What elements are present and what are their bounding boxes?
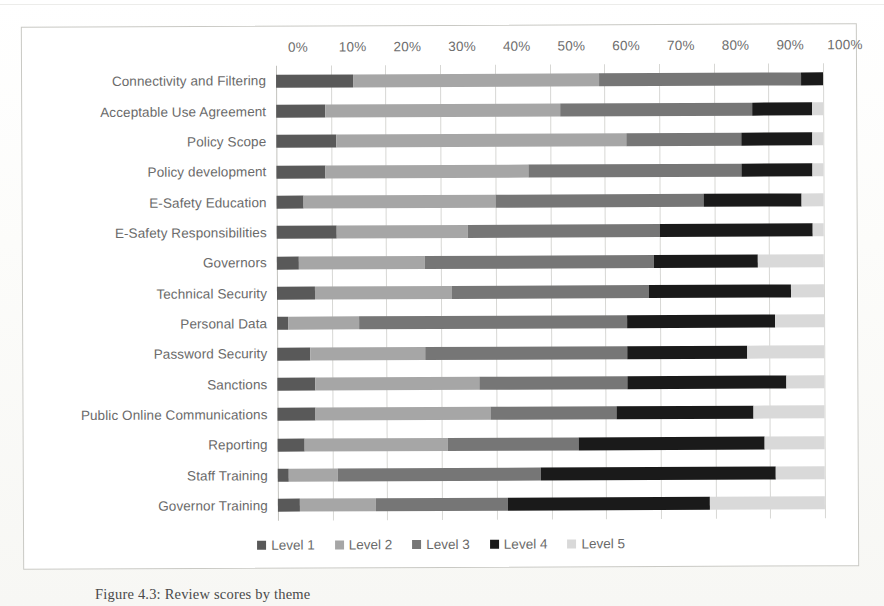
legend-label: Level 2 [349,537,393,552]
bar-segment-level-1 [278,499,300,512]
category-label: Staff Training [187,468,268,483]
bar-segment-level-5 [812,102,823,115]
category-label: Policy development [148,164,267,180]
legend-swatch-icon [567,539,576,548]
bar-segment-level-2 [304,195,495,209]
bar-segment-level-1 [276,165,325,178]
category-label: Personal Data [180,316,267,331]
chart-legend: Level 1Level 2Level 3Level 4Level 5 [23,535,859,554]
bar-segment-level-5 [748,345,825,358]
bar-segment-level-4 [627,345,747,359]
x-tick-70pct: 70% [667,38,695,53]
bar-row: Public Online Communications [277,406,824,421]
bar-segment-level-3 [452,285,649,299]
x-tick-60pct: 60% [612,38,640,53]
bar-segment-level-1 [277,317,288,330]
bar-row: E-Safety Responsibilities [277,224,824,239]
bar-segment-level-3 [376,498,507,512]
x-tick-50pct: 50% [558,38,586,53]
bar-segment-level-5 [802,193,824,206]
bar-segment-level-2 [288,317,359,330]
bar-segment-level-1 [276,135,336,148]
x-tick-90pct: 90% [776,37,804,52]
x-tick-20pct: 20% [393,39,421,54]
bar-row: Technical Security [277,284,824,299]
bar-rows: Connectivity and FilteringAcceptable Use… [276,63,825,520]
bar-segment-level-4 [703,193,802,206]
legend-swatch-icon [257,541,266,550]
bar-segment-level-5 [753,406,824,419]
category-label: E-Safety Responsibilities [115,225,267,241]
bar-segment-level-4 [660,224,813,238]
bar-segment-level-3 [359,316,627,330]
bar-segment-level-1 [277,256,299,269]
category-label: Governor Training [158,498,268,513]
bar-row: Governors [277,254,824,269]
legend-swatch-icon [490,540,499,549]
legend-label: Level 4 [504,537,548,552]
bar-segment-level-3 [338,468,540,482]
bar-segment-level-5 [775,315,824,328]
bar-segment-level-4 [752,102,812,115]
category-label: Password Security [154,346,268,361]
bar-segment-level-5 [775,466,824,479]
bar-segment-level-5 [786,375,824,388]
category-label: Technical Security [156,286,267,301]
bar-segment-level-3 [425,346,627,360]
legend-item-level-1[interactable]: Level 1 [257,538,315,553]
bar-row: Sanctions [277,375,824,390]
bar-segment-level-1 [276,74,353,87]
bar-segment-level-3 [626,133,741,147]
legend-item-level-4[interactable]: Level 4 [490,537,548,552]
bar-segment-level-3 [495,194,703,208]
category-label: E-Safety Education [149,195,266,211]
bar-row: Governor Training [278,497,825,512]
bar-segment-level-1 [277,287,315,300]
bar-segment-level-2 [316,377,480,391]
bar-segment-level-3 [561,103,752,117]
category-label: Acceptable Use Agreement [100,104,266,120]
figure-caption: Figure 4.3: Review scores by theme [95,586,310,603]
bar-segment-level-5 [812,163,823,176]
bar-row: Policy Scope [276,133,823,148]
x-tick-100pct: 100% [827,37,862,52]
legend-item-level-2[interactable]: Level 2 [335,537,393,552]
bar-row: Password Security [277,345,824,360]
bar-segment-level-2 [325,103,560,117]
bar-segment-level-2 [337,225,468,239]
bar-segment-level-2 [310,347,425,361]
bar-segment-level-4 [578,436,764,450]
category-label: Public Online Communications [81,407,268,423]
bar-segment-level-1 [277,408,315,421]
legend-swatch-icon [335,540,344,549]
bar-segment-level-3 [424,255,654,269]
bar-segment-level-3 [468,224,659,238]
x-tick-30pct: 30% [448,39,476,54]
category-label: Reporting [208,437,268,452]
bar-segment-level-3 [491,407,617,421]
x-axis-tick-labels: 0%10%20%30%40%50%60%70%80%90%100% [276,37,844,61]
bar-segment-level-4 [540,467,775,481]
category-label: Governors [203,255,267,270]
x-tick-40pct: 40% [503,39,531,54]
bar-segment-level-4 [741,163,812,176]
legend-item-level-3[interactable]: Level 3 [412,537,470,552]
bar-segment-level-5 [812,133,823,146]
bar-row: E-Safety Education [277,193,824,208]
bar-row: Personal Data [277,315,824,330]
bar-segment-level-1 [278,438,305,451]
bar-segment-level-5 [710,497,825,511]
bar-segment-level-1 [277,378,315,391]
bar-segment-level-3 [447,437,578,451]
bar-segment-level-5 [758,254,824,267]
bar-segment-level-5 [791,284,824,297]
legend-swatch-icon [412,540,421,549]
bar-segment-level-2 [326,164,528,178]
bar-segment-level-5 [764,436,824,449]
bar-segment-level-2 [300,499,377,512]
legend-item-level-5[interactable]: Level 5 [567,536,625,551]
bar-segment-level-2 [305,438,447,452]
legend-label: Level 5 [581,536,625,551]
bar-segment-level-1 [277,196,304,209]
x-tick-10pct: 10% [339,39,367,54]
